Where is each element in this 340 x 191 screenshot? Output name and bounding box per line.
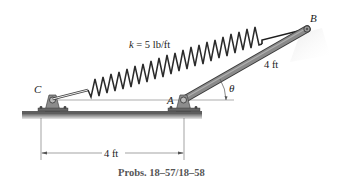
diagram-canvas: C A B θ k = 5 lb/ft 4 ft 4 ft Probs. 18–… bbox=[0, 0, 340, 191]
spring-rod-c bbox=[53, 90, 89, 99]
label-theta: θ bbox=[229, 82, 235, 94]
spring-k-value: = 5 lb/ft bbox=[134, 39, 171, 50]
angle-arrowhead bbox=[225, 96, 228, 100]
bar-length-label: 4 ft bbox=[264, 59, 278, 70]
horizontal-dimension-label: 4 ft bbox=[104, 148, 118, 159]
label-b: B bbox=[310, 12, 317, 24]
spring bbox=[88, 27, 262, 97]
label-c: C bbox=[34, 83, 42, 95]
spring-constant-label: k = 5 lb/ft bbox=[129, 39, 170, 50]
figure-caption: Probs. 18–57/18–58 bbox=[118, 167, 205, 178]
ground bbox=[22, 111, 202, 119]
label-a: A bbox=[166, 94, 174, 106]
